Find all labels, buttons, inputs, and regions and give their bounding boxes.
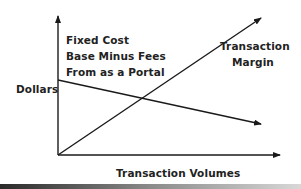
fixed-cost-label: Fixed Cost Base Minus Fees From as a Por… [66,32,166,80]
transaction-margin-label: Transaction Margin [220,38,286,70]
margin-label-line-1: Transaction [220,38,286,54]
fixed-cost-label-line-1: Fixed Cost [66,32,166,48]
fixed-cost-label-line-2: Base Minus Fees [66,48,166,64]
x-axis-label: Transaction Volumes [116,164,240,182]
fixed-cost-label-line-3: From as a Portal [66,64,166,80]
cost-vs-volume-diagram: Fixed Cost Base Minus Fees From as a Por… [0,0,301,189]
y-axis-label: Dollars [16,80,58,98]
margin-label-line-2: Margin [220,54,286,70]
bottom-edge-shadow [0,184,301,189]
